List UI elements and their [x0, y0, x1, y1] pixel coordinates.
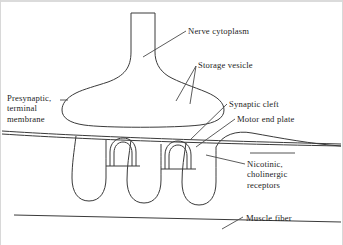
- leader-muscle-fiber: [222, 217, 243, 229]
- label-synaptic-cleft: Synaptic cleft: [229, 99, 279, 109]
- label-nerve-cytoplasm: Nerve cytoplasm: [188, 26, 249, 36]
- label-motor-end-plate: Motor end plate: [237, 114, 294, 124]
- label-nicotinic-cholinergic-receptors: Nicotinic, cholinergic receptors: [247, 159, 287, 190]
- label-storage-vesicle: Storage vesicle: [198, 60, 253, 70]
- leader-nicotinic-receptors: [206, 155, 245, 164]
- leader-synaptic-cleft: [190, 104, 227, 140]
- junctional-fold-1: [72, 136, 106, 201]
- leader-nerve-cytoplasm: [143, 31, 186, 57]
- muscle-fiber-boundary: [14, 215, 341, 222]
- label-presynaptic-terminal-membrane: Presynaptic, terminal membrane: [7, 93, 51, 124]
- label-muscle-fiber: Muscle fiber: [246, 213, 292, 223]
- neuromuscular-junction-figure: Nerve cytoplasm Storage vesicle Presynap…: [0, 0, 343, 245]
